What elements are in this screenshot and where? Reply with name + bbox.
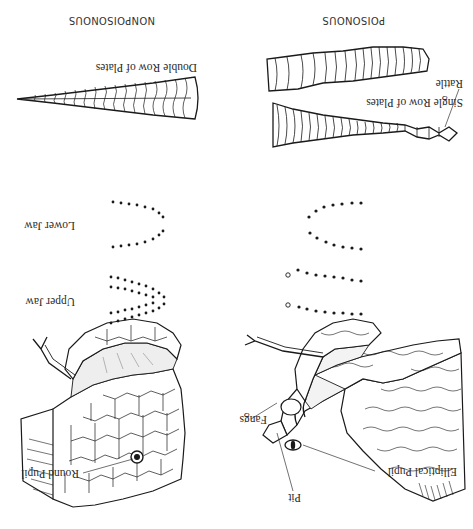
double-row-tail-drawing (17, 77, 198, 119)
double-row-of-plates-label: Double Row of Plates (96, 62, 197, 74)
single-row-of-plates-label: Single Row of Plates (366, 97, 463, 109)
nonpoisonous-illustrations (0, 0, 473, 529)
snake-comparison-diagram: Pit Elliptical Pupil Fangs Rattle Single… (0, 0, 473, 529)
fangs-label: Fangs (240, 414, 267, 426)
pit-label: Pit (288, 492, 301, 504)
elliptical-pupil-label: Elliptical Pupil (388, 466, 457, 478)
lower-jaw-label: Lower Jaw (24, 220, 75, 232)
round-pupil-label: Round Pupil (21, 468, 79, 480)
nonpoisonous-jaw-dots (110, 201, 166, 325)
upper-jaw-label: Upper Jaw (26, 296, 76, 308)
nonpoisonous-title: NONPOISONOUS (68, 15, 155, 25)
poisonous-title: POISONOUS (322, 15, 385, 25)
rattle-label: Rattle (436, 78, 463, 90)
